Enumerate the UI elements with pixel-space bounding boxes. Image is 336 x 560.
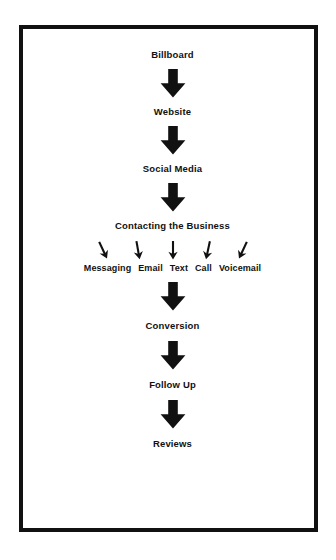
block-arrow-down-icon — [160, 282, 186, 311]
branch-label-email: Email — [138, 263, 163, 273]
flow-column: Billboard Website Social Media — [23, 29, 322, 536]
branch-label-call: Call — [195, 263, 212, 273]
flowchart-diagram: Billboard Website Social Media — [0, 0, 336, 560]
node-contacting-the-business: Contacting the Business — [115, 220, 230, 232]
node-follow-up: Follow Up — [149, 379, 196, 391]
branch-section: Messaging Email Text Call Voicemail — [23, 232, 322, 273]
branch-arrow-row — [93, 239, 253, 261]
branch-label-text: Text — [170, 263, 188, 273]
diagram-frame: Billboard Website Social Media — [19, 25, 318, 532]
arrow-down-left-slight-icon — [128, 239, 148, 261]
arrow-down-right-slight-icon — [198, 239, 218, 261]
block-arrow-down-icon — [160, 183, 186, 212]
branch-label-row: Messaging Email Text Call Voicemail — [84, 263, 261, 273]
block-arrow-down-icon — [160, 126, 186, 155]
block-arrow-down-icon — [160, 341, 186, 370]
block-arrow-down-icon — [160, 400, 186, 429]
arrow-down-right-icon — [233, 239, 253, 261]
block-arrow-down-icon — [160, 69, 186, 98]
node-website: Website — [154, 106, 191, 118]
node-conversion: Conversion — [146, 320, 200, 332]
node-social-media: Social Media — [143, 163, 202, 175]
branch-label-messaging: Messaging — [84, 263, 131, 273]
arrow-down-icon — [163, 239, 183, 261]
arrow-down-left-icon — [93, 239, 113, 261]
node-billboard: Billboard — [151, 49, 194, 61]
branch-label-voicemail: Voicemail — [219, 263, 261, 273]
node-reviews: Reviews — [153, 438, 192, 450]
